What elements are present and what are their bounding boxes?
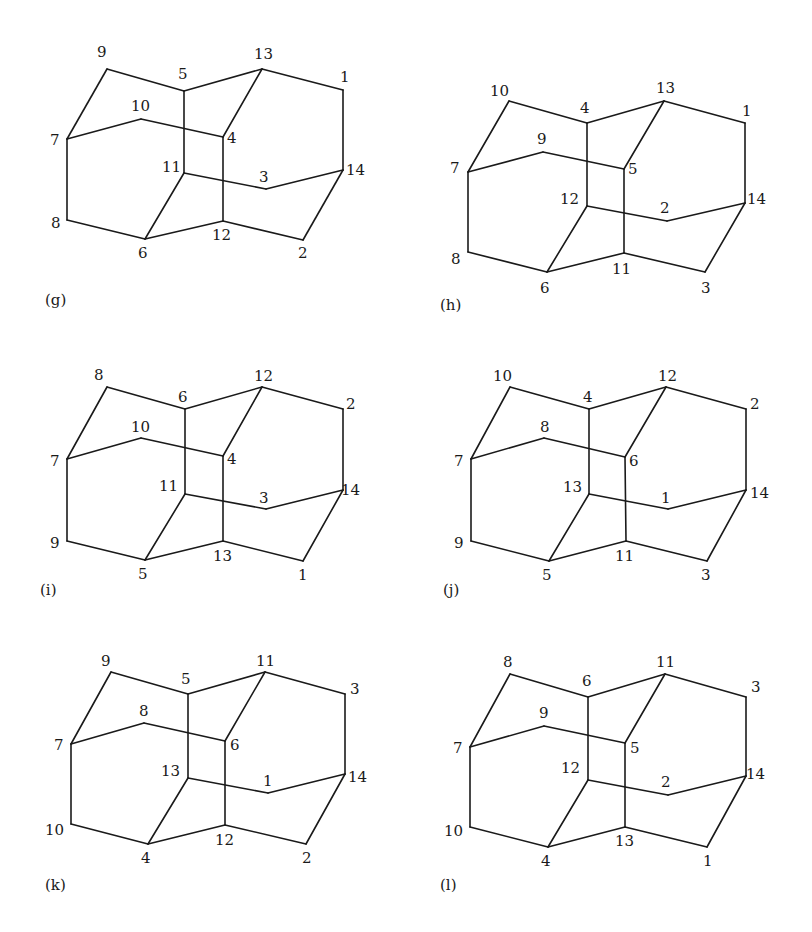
atom-label: 8 [451, 250, 461, 268]
atom-label: 3 [701, 279, 711, 297]
atom-label: 2 [346, 395, 356, 413]
atom-label: 11 [159, 477, 178, 495]
bond-14-3 [705, 203, 745, 272]
atom-label: 8 [51, 214, 61, 232]
bond-14-2 [303, 170, 343, 240]
bond-13-1 [589, 494, 668, 509]
bond-9-5 [543, 152, 624, 169]
atom-label: 1 [340, 68, 350, 86]
atom-label: 2 [302, 849, 312, 867]
atom-label: 4 [541, 852, 551, 870]
bond-10-4 [141, 438, 223, 456]
bond-7-10 [67, 119, 141, 139]
bond-8-6 [510, 674, 588, 697]
atom-label: 6 [629, 452, 639, 470]
atom-label: 9 [97, 43, 107, 61]
bond-14-1 [707, 776, 746, 847]
bond-9-7 [71, 672, 111, 744]
bond-13-1 [188, 778, 268, 793]
atom-label: 3 [701, 566, 711, 584]
bond-6-12 [185, 387, 262, 409]
bond-7-8 [71, 723, 144, 744]
atom-label: 12 [215, 831, 234, 849]
atom-label: 11 [256, 652, 275, 670]
atom-label: 4 [227, 129, 237, 147]
atom-label: 1 [742, 102, 752, 120]
atom-label: 9 [50, 534, 60, 552]
atom-label: 11 [162, 158, 181, 176]
bond-8-7 [67, 387, 107, 459]
atom-label: 14 [750, 484, 769, 502]
atom-label: 1 [298, 566, 308, 584]
atom-label: 6 [582, 672, 592, 690]
bond-2-14 [667, 203, 745, 221]
atom-label: 9 [454, 534, 464, 552]
atom-label: 10 [131, 97, 150, 115]
panel-g: 9513171041131486122(g) [45, 43, 365, 309]
atom-label: 2 [660, 199, 670, 217]
bond-10-4 [71, 824, 148, 844]
bond-8-6 [67, 220, 145, 239]
atom-label: 10 [493, 367, 512, 385]
atom-label: 7 [50, 452, 60, 470]
atom-label: 3 [259, 168, 269, 186]
atom-label: 4 [583, 388, 593, 406]
atom-label: 2 [661, 773, 671, 791]
bond-4-13 [223, 69, 262, 137]
bond-13-4 [548, 827, 625, 847]
atom-label: 6 [138, 244, 148, 262]
bond-2-14 [668, 776, 746, 795]
atom-label: 4 [227, 450, 237, 468]
atom-label: 9 [101, 652, 111, 670]
bond-14-2 [306, 774, 345, 844]
panel-k: 9511378613114104122(k) [45, 652, 367, 894]
bond-12-2 [588, 780, 668, 795]
atom-label: 1 [703, 852, 713, 870]
atom-label: 6 [230, 736, 240, 754]
atom-label: 13 [615, 832, 634, 850]
atom-label: 7 [54, 736, 64, 754]
bond-13-1 [664, 101, 745, 123]
atom-label: 10 [490, 82, 509, 100]
bond-9-5 [107, 69, 184, 91]
panel-i: 8612271041131495131(i) [40, 366, 360, 599]
atom-label: 5 [630, 739, 640, 757]
bond-1-13 [625, 827, 707, 847]
atom-label: 2 [298, 244, 308, 262]
bond-14-1 [303, 490, 343, 561]
bond-12-4 [148, 825, 225, 844]
bond-6-12 [547, 206, 587, 272]
bond-8-6 [544, 438, 625, 457]
panel-l: 8611379512214104131(l) [440, 653, 765, 894]
atom-label: 12 [254, 367, 273, 385]
atom-label: 13 [254, 45, 273, 63]
bond-6-11 [145, 173, 184, 239]
bond-5-13 [549, 494, 589, 561]
bond-2-12 [225, 825, 306, 844]
atom-label: 6 [540, 279, 550, 297]
atom-label: 11 [612, 260, 631, 278]
panel-label: (h) [440, 296, 461, 314]
bond-10-4 [470, 827, 548, 847]
bond-9-5 [67, 541, 145, 560]
atom-label: 13 [161, 762, 180, 780]
bond-7-9 [468, 152, 543, 172]
atom-label: 10 [444, 822, 463, 840]
atom-label: 8 [540, 418, 550, 436]
bond-11-3 [665, 674, 746, 697]
atom-label: 5 [628, 160, 638, 178]
bond-13-1 [262, 69, 343, 90]
bond-1-14 [668, 490, 746, 509]
bond-9-5 [544, 726, 625, 743]
bond-13-5 [145, 541, 223, 560]
bond-8-6 [144, 723, 225, 741]
panel-label: (l) [440, 876, 457, 894]
panel-label: (i) [40, 581, 57, 599]
atom-label: 5 [138, 565, 148, 583]
bond-2-12 [223, 221, 303, 240]
atom-label: 8 [94, 366, 104, 384]
bond-8-6 [107, 387, 185, 409]
atom-label: 10 [45, 821, 64, 839]
bond-12-2 [666, 387, 746, 409]
bond-10-4 [510, 387, 589, 409]
